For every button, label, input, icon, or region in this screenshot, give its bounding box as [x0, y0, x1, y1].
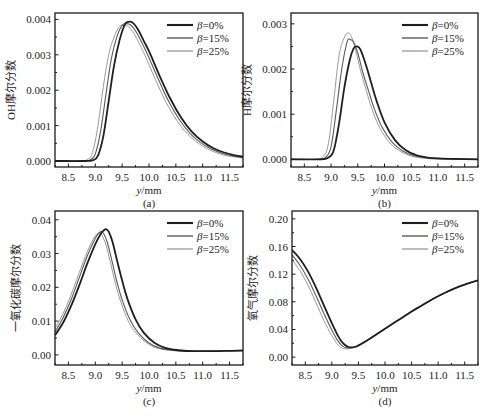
legend-label: β=25%	[196, 45, 229, 57]
series-layer	[292, 250, 478, 349]
x-tick-label: 11.0	[429, 171, 448, 183]
legend: β=0%β=15%β=25%	[402, 217, 464, 255]
chart-panel-b: 8.59.09.510.010.511.011.50.0000.0010.002…	[240, 13, 478, 210]
y-tick-label: 0.16	[269, 241, 289, 253]
x-axis-title: y/mm	[371, 184, 398, 196]
chart-panel-d: 8.59.09.510.010.511.011.50.000.040.080.1…	[246, 211, 478, 408]
legend-label: β=15%	[431, 230, 464, 242]
x-tick-label: 11.5	[220, 171, 239, 183]
x-axis-title: y/mm	[135, 382, 162, 394]
y-tick-label: 0.001	[262, 108, 287, 120]
panel-label: (b)	[378, 197, 391, 210]
x-tick-label: 11.0	[193, 171, 212, 183]
legend-label: β=25%	[196, 243, 229, 255]
chart-panel-c: 8.59.09.510.010.511.011.50.000.010.020.0…	[9, 211, 243, 408]
x-tick-label: 9.0	[88, 171, 102, 183]
y-tick-label: 0.002	[262, 63, 287, 75]
x-tick-label: 8.5	[297, 171, 311, 183]
panel-label: (c)	[143, 395, 156, 408]
y-tick-label: 0.002	[26, 84, 51, 96]
x-tick-label: 10.5	[166, 369, 186, 381]
y-tick-label: 0.001	[26, 120, 51, 132]
x-tick-label: 9.5	[115, 369, 129, 381]
legend-label: β=0%	[196, 217, 223, 229]
y-tick-label: 0.01	[32, 315, 51, 327]
x-tick-label: 8.5	[62, 369, 76, 381]
x-tick-label: 10.0	[139, 171, 159, 183]
chart-panel-a: 8.59.09.510.010.511.011.50.0000.0010.002…	[4, 13, 243, 210]
panel-label: (d)	[379, 395, 392, 408]
panel-label: (a)	[143, 197, 156, 210]
series-line	[292, 250, 478, 347]
y-tick-label: 0.04	[269, 323, 289, 335]
y-tick-label: 0.08	[269, 296, 289, 308]
y-tick-label: 0.004	[26, 13, 51, 25]
x-tick-label: 11.0	[429, 369, 448, 381]
x-tick-label: 10.0	[375, 171, 395, 183]
x-tick-label: 10.0	[375, 369, 395, 381]
figure: 8.59.09.510.010.511.011.50.0000.0010.002…	[0, 0, 491, 417]
legend-label: β=0%	[431, 19, 458, 31]
y-tick-label: 0.12	[269, 268, 288, 280]
legend-label: β=15%	[196, 230, 229, 242]
y-tick-label: 0.00	[269, 351, 289, 363]
y-axis-title: 氧气摩尔分数	[246, 255, 259, 321]
x-tick-label: 11.5	[455, 171, 474, 183]
x-tick-label: 10.5	[402, 171, 422, 183]
x-axis-title: y/mm	[371, 382, 398, 394]
x-tick-label: 11.0	[193, 369, 212, 381]
series-line	[291, 46, 478, 159]
y-tick-label: 0.000	[26, 155, 51, 167]
series-line	[292, 255, 478, 348]
legend-label: β=15%	[431, 32, 464, 44]
y-tick-label: 0.20	[269, 213, 289, 225]
y-tick-label: 0.00	[32, 349, 52, 361]
legend-label: β=0%	[196, 19, 223, 31]
y-tick-label: 0.000	[262, 153, 287, 165]
x-tick-label: 9.0	[88, 369, 102, 381]
x-tick-label: 9.5	[351, 171, 365, 183]
y-tick-label: 0.003	[26, 49, 51, 61]
x-tick-label: 9.5	[115, 171, 129, 183]
x-tick-label: 11.5	[455, 369, 474, 381]
x-tick-label: 9.5	[352, 369, 366, 381]
x-axis-title: y/mm	[135, 184, 162, 196]
y-axis-title: OH摩尔分数	[4, 60, 17, 120]
y-tick-label: 0.02	[32, 281, 51, 293]
legend-label: β=25%	[431, 45, 464, 57]
y-axis-title: 一氧化碳摩尔分数	[9, 244, 22, 332]
y-axis-title: H摩尔分数	[240, 64, 253, 116]
legend: β=0%β=15%β=25%	[402, 19, 464, 57]
y-tick-label: 0.003	[262, 18, 287, 30]
x-tick-label: 9.0	[325, 369, 339, 381]
y-tick-label: 0.04	[32, 214, 52, 226]
x-tick-label: 10.0	[139, 369, 159, 381]
legend-label: β=25%	[431, 243, 464, 255]
x-tick-label: 8.5	[298, 369, 312, 381]
x-tick-label: 10.5	[166, 171, 186, 183]
x-tick-label: 11.5	[220, 369, 239, 381]
x-tick-label: 8.5	[62, 171, 76, 183]
y-tick-label: 0.03	[32, 248, 52, 260]
x-tick-label: 9.0	[324, 171, 338, 183]
legend-label: β=15%	[196, 32, 229, 44]
legend-label: β=0%	[431, 217, 458, 229]
x-tick-label: 10.5	[402, 369, 422, 381]
legend: β=0%β=15%β=25%	[167, 217, 229, 255]
legend: β=0%β=15%β=25%	[167, 19, 229, 57]
